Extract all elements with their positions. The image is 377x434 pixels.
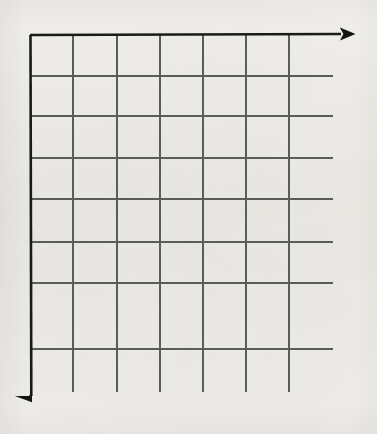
right-arrowhead-icon (340, 26, 359, 43)
grid-canvas (0, 0, 377, 434)
grid-horizontal-lines (30, 76, 333, 349)
horizontal-axis (30, 34, 341, 35)
vertical-axis (31, 35, 32, 396)
grid-figure: Hand-drawn / photocopied blank grid char… (0, 0, 377, 434)
grid-vertical-lines (73, 35, 289, 392)
down-arrowhead-icon (22, 393, 40, 414)
axis-group (30, 34, 341, 396)
